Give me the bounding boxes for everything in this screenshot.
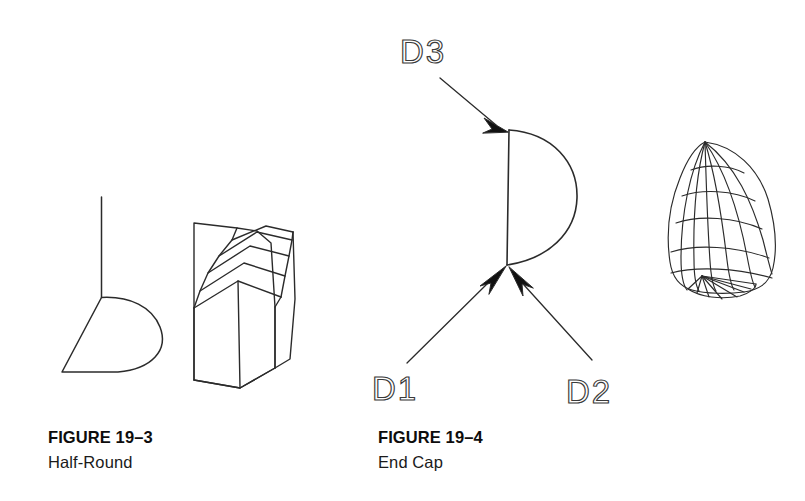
solid-top-left-edge [194,228,237,308]
figure-19-3-number: FIGURE 19–3 [48,429,153,446]
mesh-base-fan [688,276,756,299]
mesh-latitude-1 [691,166,744,173]
callout-label-d2: D2 [566,373,612,410]
solid-silhouette [194,223,275,388]
figure-19-3-caption: FIGURE 19–3 Half-Round [48,429,153,470]
leader-d3 [440,78,508,133]
half-round-solid [194,223,295,388]
mesh-meridian-2 [694,142,705,291]
mesh-latitude-4 [671,247,769,258]
solid-front-bottom [194,368,275,388]
mesh-silhouette [668,142,775,293]
solid-facet-2 [200,263,285,291]
mesh-latitude-2 [682,192,755,201]
solid-right-edge-c [275,297,281,307]
arrowhead-d1 [480,266,506,294]
figure-page: D3 D1 D2 [0,0,805,501]
solid-facet-4 [219,232,292,256]
profile-straight-edge [507,130,509,265]
callout-label-d3: D3 [400,33,446,70]
leader-d1 [407,266,506,363]
end-cap-callout-leaders [407,78,592,363]
arrowhead-d2 [509,267,533,296]
arrowhead-d3 [483,118,508,133]
figure-19-4-caption: FIGURE 19–4 End Cap [378,429,483,470]
leader-d2 [509,267,592,360]
half-round-profile [62,197,162,372]
figure-19-4-number: FIGURE 19–4 [378,429,483,446]
solid-right-edge-b [275,232,295,368]
solid-facet-3 [208,246,289,273]
callout-label-d1: D1 [372,370,418,407]
solid-facet-5 [232,226,293,240]
mesh-meridian-6 [705,142,772,274]
mesh-latitude-3 [676,218,762,229]
profile-outline [62,297,162,372]
mesh-latitude-5 [671,269,772,278]
profile-arc [507,130,577,265]
solid-facet-1 [194,281,281,308]
mesh-base-rim [688,284,756,298]
mesh-meridian-3 [705,142,716,291]
figure-artwork: D3 D1 D2 [0,0,805,501]
figure-19-4-title: End Cap [378,454,483,471]
mesh-meridian-5 [705,142,755,287]
end-cap-mesh [668,142,775,299]
figure-19-3-title: Half-Round [48,454,153,471]
solid-right-edge-a [281,232,293,297]
mesh-meridian-4 [705,142,734,290]
mesh-meridian-1 [681,142,705,290]
solid-front-edge-2 [238,281,240,388]
end-cap-profile [507,130,577,265]
